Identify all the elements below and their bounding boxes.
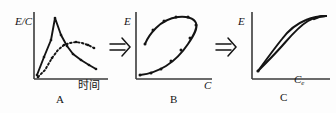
panel-a: E/C 时间 A	[0, 0, 112, 113]
panel-b-x-axis-label: C	[204, 80, 211, 91]
panel-b-markers	[139, 16, 198, 77]
panel-c-x-axis-label-sub: e	[301, 79, 304, 87]
panel-a-x-axis-label: 时间	[78, 80, 100, 91]
panel-a-solid-markers	[36, 17, 98, 77]
panel-b: E C B	[118, 0, 218, 113]
panel-c-origin-marker	[256, 69, 259, 72]
panel-c-upper-branch	[258, 16, 326, 71]
panel-b-hysteresis-curve	[140, 17, 197, 75]
panel-b-y-axis-label: E	[124, 16, 131, 27]
panel-c-x-axis-label: Ce	[294, 74, 304, 87]
panel-a-dotted-curve	[38, 42, 94, 77]
panel-c: E Ce C	[228, 0, 336, 113]
panel-c-lower-branch	[258, 16, 326, 71]
panel-c-y-axis-label: E	[238, 16, 245, 27]
panel-b-caption: B	[170, 94, 177, 105]
figure-container: E/C 时间 A	[0, 0, 336, 113]
panel-c-caption: C	[280, 92, 287, 103]
panel-a-y-axis-label: E/C	[15, 16, 32, 27]
panel-b-plot	[118, 0, 218, 113]
panel-a-caption: A	[56, 94, 64, 105]
